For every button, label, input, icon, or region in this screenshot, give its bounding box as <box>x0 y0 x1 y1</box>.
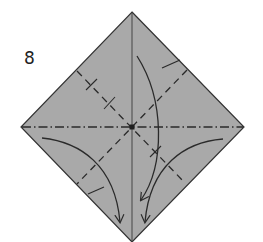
origami-diagram <box>0 0 263 242</box>
center-point-marker <box>130 125 135 130</box>
